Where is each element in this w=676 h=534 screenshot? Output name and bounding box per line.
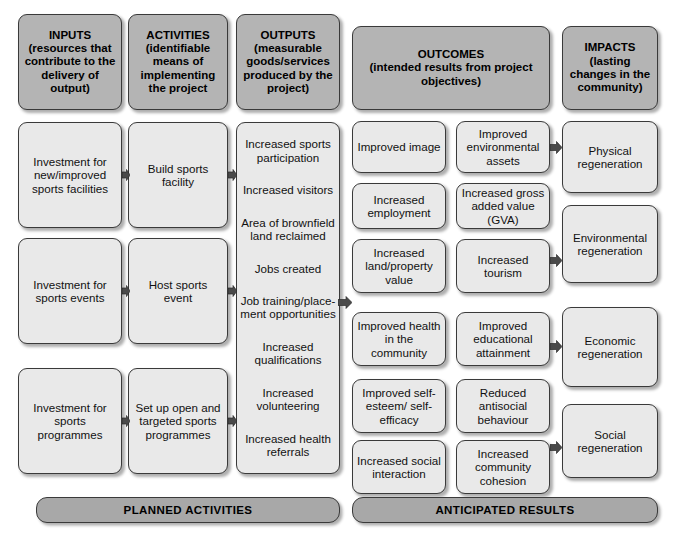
outcome-c2-node-5: Reduced antisocial behaviour xyxy=(456,379,550,433)
output-item-1: Increased sports participation xyxy=(240,137,336,164)
output-item-5: Job training/place-ment opportunities xyxy=(240,294,336,321)
impact-node-3: Economic regeneration xyxy=(562,307,658,387)
output-item-4: Jobs created xyxy=(240,262,336,275)
header-activities: ACTIVITIES (identifiable means of implem… xyxy=(128,14,228,110)
outcome-c1-node-2-label: Increased employment xyxy=(357,193,441,220)
activity-node-2-label: Host sports event xyxy=(133,278,223,305)
arrow-activity-2-to-outputs xyxy=(228,285,237,297)
arrow-outcome-to-impact-economic xyxy=(550,340,562,352)
arrow-outcome-to-impact-environmental xyxy=(550,254,562,266)
outcome-c2-node-6-label: Increased community cohesion xyxy=(461,447,545,487)
impact-node-2: Environmental regeneration xyxy=(562,205,658,283)
outcome-c1-node-6: Increased social interaction xyxy=(352,440,446,494)
outcome-c2-node-2: Increased gross added value (GVA) xyxy=(456,183,550,229)
header-impacts: IMPACTS (lasting changes in the communit… xyxy=(562,26,658,110)
outcome-c2-node-3: Increased tourism xyxy=(456,239,550,293)
header-outcomes-title: OUTCOMES xyxy=(356,48,546,61)
arrow-outputs-to-outcomes xyxy=(338,296,352,308)
arrow-input-2-to-activity-2 xyxy=(122,285,130,297)
input-node-3-label: Investment for sports programmes xyxy=(23,401,117,441)
outcome-c1-node-1: Improved image xyxy=(352,121,446,173)
banner-planned-activities: PLANNED ACTIVITIES xyxy=(36,497,340,523)
impact-node-4-label: Social regeneration xyxy=(567,428,653,455)
input-node-1-label: Investment for new/improved sports facil… xyxy=(23,155,117,195)
outcome-c2-node-1: Improved environmental assets xyxy=(456,121,550,173)
outcome-c1-node-3-label: Increased land/property value xyxy=(357,246,441,286)
arrow-outcome-to-impact-physical xyxy=(550,141,562,153)
outcome-c1-node-3: Increased land/property value xyxy=(352,239,446,293)
arrow-activity-3-to-outputs xyxy=(228,415,237,427)
outcome-c1-node-4: Improved health in the community xyxy=(352,312,446,366)
output-item-6: Increased qualifications xyxy=(240,340,336,367)
outcome-c2-node-2-label: Increased gross added value (GVA) xyxy=(461,186,545,226)
logic-model-diagram: INPUTS (resources that contribute to the… xyxy=(0,0,676,534)
outcome-c1-node-5: Improved self-esteem/ self-efficacy xyxy=(352,379,446,433)
header-outputs-subtitle: (measurable goods/services produced by t… xyxy=(240,42,336,95)
input-node-1: Investment for new/improved sports facil… xyxy=(18,122,122,228)
outcome-c2-node-4-label: Improved educational attainment xyxy=(461,319,545,359)
outcome-c2-node-3-label: Increased tourism xyxy=(461,253,545,280)
header-inputs: INPUTS (resources that contribute to the… xyxy=(18,14,122,110)
output-item-8: Increased health referrals xyxy=(240,432,336,459)
activity-node-1: Build sports facility xyxy=(128,122,228,228)
impact-node-1: Physical regeneration xyxy=(562,121,658,193)
header-outputs-title: OUTPUTS xyxy=(240,29,336,42)
arrow-outcome-to-impact-social xyxy=(550,441,562,453)
output-item-3: Area of brownfield land reclaimed xyxy=(240,216,336,243)
input-node-2-label: Investment for sports events xyxy=(23,278,117,305)
activity-node-3: Set up open and targeted sports programm… xyxy=(128,368,228,474)
activity-node-2: Host sports event xyxy=(128,238,228,344)
header-activities-subtitle: (identifiable means of implementing the … xyxy=(132,42,224,95)
arrow-input-1-to-activity-1 xyxy=(122,169,130,181)
outcome-c1-node-5-label: Improved self-esteem/ self-efficacy xyxy=(357,386,441,426)
impact-node-4: Social regeneration xyxy=(562,404,658,478)
output-item-2: Increased visitors xyxy=(240,183,336,196)
impact-node-1-label: Physical regeneration xyxy=(567,144,653,171)
header-outputs: OUTPUTS (measurable goods/services produ… xyxy=(236,14,340,110)
outcome-c2-node-5-label: Reduced antisocial behaviour xyxy=(461,386,545,426)
header-activities-title: ACTIVITIES xyxy=(132,29,224,42)
arrow-input-3-to-activity-3 xyxy=(122,415,130,427)
arrow-activity-1-to-outputs xyxy=(228,169,237,181)
impact-node-2-label: Environmental regeneration xyxy=(567,231,653,258)
activity-node-1-label: Build sports facility xyxy=(133,162,223,189)
header-outcomes: OUTCOMES (intended results from project … xyxy=(352,26,550,110)
banner-anticipated-results: ANTICIPATED RESULTS xyxy=(352,497,658,523)
header-impacts-subtitle: (lasting changes in the community) xyxy=(566,55,654,95)
output-item-7: Increased volunteering xyxy=(240,386,336,413)
impact-node-3-label: Economic regeneration xyxy=(567,334,653,361)
banner-planned-activities-label: PLANNED ACTIVITIES xyxy=(124,504,253,516)
outcome-c1-node-6-label: Increased social interaction xyxy=(357,454,441,481)
outcome-c1-node-4-label: Improved health in the community xyxy=(357,319,441,359)
header-outcomes-subtitle: (intended results from project objective… xyxy=(356,61,546,88)
input-node-3: Investment for sports programmes xyxy=(18,368,122,474)
header-inputs-title: INPUTS xyxy=(22,29,118,42)
activity-node-3-label: Set up open and targeted sports programm… xyxy=(133,401,223,441)
banner-anticipated-results-label: ANTICIPATED RESULTS xyxy=(435,504,574,516)
outcome-c1-node-2: Increased employment xyxy=(352,183,446,229)
outcome-c2-node-6: Increased community cohesion xyxy=(456,440,550,494)
outcome-c1-node-1-label: Improved image xyxy=(357,140,440,153)
header-inputs-subtitle: (resources that contribute to the delive… xyxy=(22,42,118,95)
outcome-c2-node-1-label: Improved environmental assets xyxy=(461,127,545,167)
input-node-2: Investment for sports events xyxy=(18,238,122,344)
outputs-node: Increased sports participation Increased… xyxy=(236,122,340,474)
outcome-c2-node-4: Improved educational attainment xyxy=(456,312,550,366)
header-impacts-title: IMPACTS xyxy=(566,41,654,54)
